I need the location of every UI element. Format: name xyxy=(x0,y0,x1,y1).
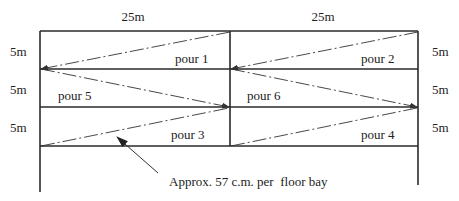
pour-2-label: pour 2 xyxy=(361,51,395,66)
left-dimension-row2: 5m xyxy=(10,82,27,97)
pour-labels: pour 1 pour 2 pour 5 pour 6 pour 3 pour … xyxy=(58,51,395,142)
pour-1-label: pour 1 xyxy=(175,51,209,66)
right-dimension-row3: 5m xyxy=(432,120,449,135)
pour-6-label: pour 6 xyxy=(247,88,281,103)
pour-3-label: pour 3 xyxy=(171,127,205,142)
right-dimension-row2: 5m xyxy=(432,82,449,97)
pour-sequence-diagram: 25m 25m 5m 5m 5m 5m 5m 5m pour 1 pour 2 … xyxy=(0,0,459,201)
pour-5-label: pour 5 xyxy=(58,88,92,103)
right-dimension-row1: 5m xyxy=(432,44,449,59)
pour-4-label: pour 4 xyxy=(361,127,395,142)
annotation-leader-arrow xyxy=(117,137,158,173)
annotation-text: Approx. 57 c.m. per floor bay xyxy=(169,174,328,189)
top-dimension-left: 25m xyxy=(121,9,144,24)
left-dimension-row3: 5m xyxy=(10,120,27,135)
left-dimension-row1: 5m xyxy=(10,44,27,59)
annotation-callout: Approx. 57 c.m. per floor bay xyxy=(117,137,328,189)
top-dimension-right: 25m xyxy=(311,9,334,24)
